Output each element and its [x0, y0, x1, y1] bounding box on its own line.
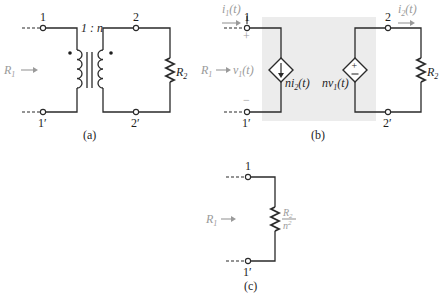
- polarity-dot-secondary: [109, 51, 113, 55]
- resistor-r2-icon: [166, 58, 174, 82]
- label-minus: −: [243, 93, 250, 107]
- secondary-coil-icon: [98, 50, 103, 88]
- secondary-bottom-wire-right: [139, 82, 170, 112]
- r1-arrow-icon: [216, 67, 231, 73]
- label-equivalent-resistance: R2 n2: [282, 207, 296, 231]
- caption-c: (c): [244, 279, 257, 293]
- right-top-wire-right: [391, 28, 421, 58]
- resistor-r2-icon: [417, 58, 425, 82]
- label-terminal-2prime: 2′: [131, 116, 140, 130]
- label-i1: i1(t): [222, 2, 241, 18]
- r1-arrow-icon: [221, 216, 236, 222]
- label-r1: R1: [3, 63, 15, 79]
- secondary-top-wire-left: [103, 28, 133, 50]
- label-plus: +: [243, 29, 250, 43]
- top-wire: [251, 177, 275, 207]
- label-turns-ratio: 1 : n: [81, 21, 103, 35]
- terminal-1prime: [244, 109, 249, 114]
- terminal-2: [133, 25, 138, 30]
- terminal-2prime: [385, 109, 390, 114]
- caption-a: (a): [83, 128, 96, 142]
- r1-arrow-icon: [21, 67, 38, 73]
- i1-arrow-icon: [222, 20, 241, 26]
- label-r2: R2: [426, 65, 438, 81]
- label-r1: R1: [205, 212, 217, 228]
- primary-top-wire: [46, 28, 77, 50]
- terminal-1: [245, 174, 250, 179]
- terminal-1prime: [245, 258, 250, 263]
- label-terminal-2: 2: [385, 10, 391, 24]
- i2-arrow-icon: [398, 20, 415, 26]
- label-terminal-1: 1: [244, 10, 250, 24]
- label-r2: R2: [175, 65, 187, 81]
- panel-c: 1 1′ R2 n2 R1 (c): [205, 159, 296, 293]
- secondary-top-wire-right: [139, 28, 170, 58]
- right-bottom-wire-right: [391, 82, 421, 112]
- secondary-bottom-wire-left: [103, 88, 133, 112]
- label-terminal-1prime: 1′: [242, 116, 251, 130]
- label-terminal-1prime: 1′: [38, 116, 47, 130]
- terminal-2prime: [133, 109, 138, 114]
- label-i2: i2(t): [398, 2, 417, 18]
- label-v1: v1(t): [233, 63, 254, 79]
- polarity-dot-primary: [68, 51, 72, 55]
- primary-coil-icon: [77, 50, 82, 88]
- label-terminal-1: 1: [245, 159, 251, 173]
- caption-b: (b): [311, 128, 325, 142]
- terminal-2: [385, 25, 390, 30]
- label-terminal-2prime: 2′: [383, 116, 392, 130]
- panel-b: + + − 1 1′ 2 2′ i1(t) i2(t) R1: [200, 2, 438, 142]
- label-r1: R1: [200, 63, 212, 79]
- panel-a: 1 1′ 2 2′ 1 : n R2 R1 (a): [3, 10, 187, 142]
- label-terminal-2: 2: [133, 10, 139, 24]
- resistor-equivalent-icon: [271, 207, 279, 231]
- svg-text:n2: n2: [283, 219, 292, 231]
- label-terminal-1prime: 1′: [243, 265, 252, 279]
- terminal-1prime: [40, 109, 45, 114]
- svg-text:+: +: [352, 60, 358, 71]
- label-terminal-1: 1: [40, 10, 46, 24]
- terminal-1: [40, 25, 45, 30]
- primary-bottom-wire: [46, 88, 77, 112]
- bottom-wire: [251, 231, 275, 261]
- circuit-figure: 1 1′ 2 2′ 1 : n R2 R1 (a): [0, 0, 442, 303]
